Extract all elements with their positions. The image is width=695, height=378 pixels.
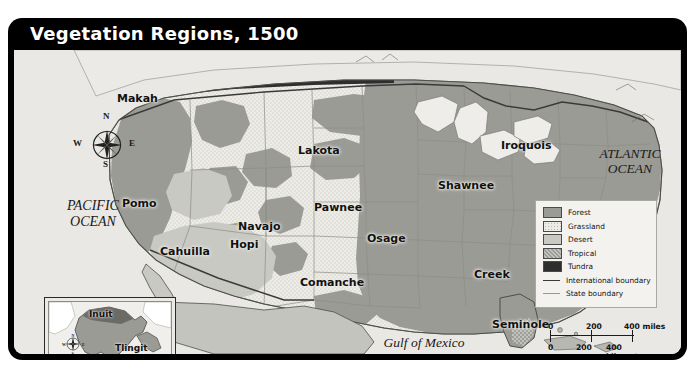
map-panel[interactable]: PACIFIC OCEAN ATLANTIC OCEAN Gulf of Mex…	[14, 50, 681, 354]
scale-bar: 0 200 400 miles 0 200 400 kilometers	[548, 322, 670, 354]
legend-line-state	[543, 289, 560, 298]
tribe-label-creek: Creek	[474, 268, 510, 281]
compass-east-label: E	[129, 138, 135, 148]
legend-line-international	[543, 276, 560, 285]
legend-swatch-grassland	[543, 221, 562, 232]
tribe-label-seminole: Seminole	[492, 318, 549, 331]
compass-rose: N S W E	[76, 112, 138, 174]
map-figure-frame: Vegetation Regions, 1500	[8, 18, 687, 360]
scale-miles-400: 400 miles	[624, 322, 665, 331]
tribe-label-makah: Makah	[117, 92, 158, 105]
alaska-inset[interactable]: N S W E Inuit Tlingit 0 300 600 miles	[44, 297, 176, 354]
scale-km-400: 400 kilometers	[606, 343, 670, 354]
inset-compass-south-label: S	[72, 351, 74, 354]
inset-compass-west-label: W	[62, 342, 66, 347]
inset-label-inuit: Inuit	[89, 309, 113, 319]
legend-item-tropical: Tropical	[543, 247, 656, 260]
scale-miles-200: 200	[586, 322, 602, 331]
tribe-label-shawnee: Shawnee	[438, 179, 494, 192]
compass-north-label: N	[103, 111, 110, 121]
inset-label-tlingit: Tlingit	[115, 343, 148, 353]
legend-item-state-boundary: State boundary	[543, 287, 656, 300]
legend-item-tundra: Tundra	[543, 260, 656, 273]
title-bar: Vegetation Regions, 1500	[8, 18, 687, 50]
legend: Forest Grassland Desert Tropical Tundra …	[535, 200, 657, 308]
compass-south-label: S	[103, 159, 108, 169]
atlantic-ocean-label: ATLANTIC OCEAN	[574, 146, 681, 176]
gulf-of-mexico-label: Gulf of Mexico	[358, 335, 490, 350]
alaska-inset-map: N S W E Inuit Tlingit 0 300 600 miles	[48, 301, 172, 354]
scale-km-0: 0	[548, 343, 553, 352]
tribe-label-osage: Osage	[367, 232, 406, 245]
legend-swatch-desert	[543, 234, 562, 245]
legend-item-grassland: Grassland	[543, 220, 656, 233]
compass-west-label: W	[73, 138, 82, 148]
tribe-label-navajo: Navajo	[238, 220, 281, 233]
tribe-label-comanche: Comanche	[300, 276, 364, 289]
tribe-label-pomo: Pomo	[122, 197, 157, 210]
legend-item-forest: Forest	[543, 206, 656, 219]
legend-item-international-boundary: International boundary	[543, 274, 656, 287]
scale-km-200: 200	[576, 343, 592, 352]
legend-swatch-forest	[543, 207, 562, 218]
tribe-label-pawnee: Pawnee	[314, 201, 362, 214]
legend-item-desert: Desert	[543, 233, 656, 246]
legend-swatch-tundra	[543, 261, 562, 272]
tribe-label-hopi: Hopi	[230, 238, 258, 251]
tribe-label-iroquois: Iroquois	[501, 139, 552, 152]
tribe-label-lakota: Lakota	[298, 144, 340, 157]
legend-swatch-tropical	[543, 248, 562, 259]
inset-compass-east-label: E	[82, 342, 85, 347]
page-title: Vegetation Regions, 1500	[30, 23, 299, 44]
tribe-label-cahuilla: Cahuilla	[160, 245, 210, 258]
inset-compass-north-label: N	[72, 333, 75, 338]
